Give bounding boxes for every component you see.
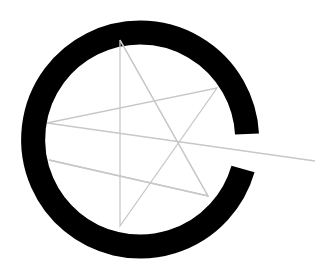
open-ring-icon [33, 33, 247, 247]
logo-canvas [0, 0, 329, 271]
star-figure-icon [47, 40, 315, 226]
